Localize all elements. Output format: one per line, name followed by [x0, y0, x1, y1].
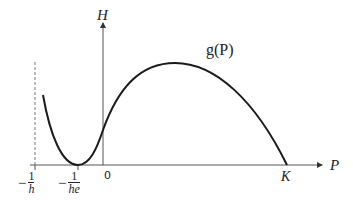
numerator: 1 [71, 171, 77, 182]
diagram-canvas [0, 0, 353, 200]
tick-label-k: K [281, 170, 290, 184]
tick-label-neg-one-over-he: − 1 he [58, 171, 80, 195]
y-axis-label: H [97, 8, 108, 23]
curve-label-text: g(P) [206, 41, 234, 58]
fraction: 1 h [28, 171, 34, 195]
curve-label: g(P) [206, 42, 234, 58]
x-axis-label: P [330, 158, 339, 173]
tick-label-neg-one-over-h: − 1 h [18, 171, 34, 195]
minus-sign: − [58, 175, 66, 192]
numerator: 1 [28, 171, 34, 182]
tick-label-origin: 0 [104, 170, 111, 181]
denominator: he [68, 183, 79, 195]
denominator: h [28, 183, 34, 195]
fraction: 1 he [68, 171, 79, 195]
minus-sign: − [18, 175, 26, 192]
curve-g-of-p [43, 63, 287, 165]
